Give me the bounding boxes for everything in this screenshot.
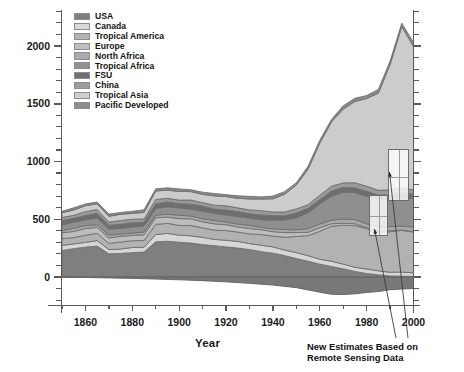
leader-line-1-arrowhead <box>374 229 378 234</box>
leader-line-1 <box>375 229 397 338</box>
annotation-leader-lines <box>0 0 464 372</box>
chart-figure: 2000150010005000 18601880190019201940196… <box>0 0 464 372</box>
leader-line-2 <box>390 172 409 338</box>
